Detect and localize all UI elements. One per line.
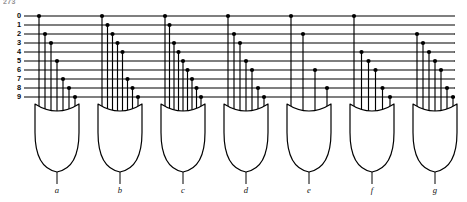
junction-dot-d-9 [262,95,266,99]
junction-dot-b-0 [100,14,104,18]
or-gate-f[interactable] [350,104,394,172]
junction-dot-a-8 [67,86,71,90]
junction-dot-c-5 [181,59,185,63]
or-gate-b[interactable] [98,104,142,172]
or-gate-e[interactable] [287,104,331,172]
junction-dot-g-2 [415,32,419,36]
junction-dot-d-2 [232,32,236,36]
junction-dot-b-4 [120,50,124,54]
junction-dot-c-4 [176,50,180,54]
junction-dot-a-9 [73,95,77,99]
logic-diagram-svg: 0123456789abcdefg [0,0,467,202]
gate-output-label-g: g [433,185,438,195]
gate-output-label-b: b [118,185,123,195]
gate-group [35,104,457,184]
junction-dot-e-2 [301,32,305,36]
gate-output-label-c: c [181,185,185,195]
junction-dot-d-5 [244,59,248,63]
junction-dot-a-3 [49,41,53,45]
junction-dot-f-6 [373,68,377,72]
junction-dot-c-1 [167,23,171,27]
or-gate-g[interactable] [413,104,457,172]
input-row-label-5: 5 [17,56,21,65]
junction-dot-b-9 [136,95,140,99]
junction-dot-g-6 [439,68,443,72]
junction-dot-a-7 [61,77,65,81]
junction-dot-c-6 [185,68,189,72]
input-row-label-8: 8 [17,83,21,92]
junction-dot-d-8 [256,86,260,90]
junction-dot-a-2 [43,32,47,36]
junction-dot-g-5 [433,59,437,63]
junction-dot-b-2 [110,32,114,36]
gate-output-label-a: a [55,185,59,195]
junction-dot-a-0 [37,14,41,18]
junction-dot-c-9 [199,95,203,99]
junction-dot-b-1 [105,23,109,27]
junction-dot-b-3 [115,41,119,45]
input-row-label-3: 3 [17,38,21,47]
or-gate-c[interactable] [161,104,205,172]
junction-dot-c-0 [163,14,167,18]
junction-dot-f-8 [380,86,384,90]
junction-dot-f-0 [352,14,356,18]
junction-dot-c-7 [190,77,194,81]
junction-dot-d-3 [238,41,242,45]
junction-dot-g-3 [421,41,425,45]
input-row-label-2: 2 [17,29,21,38]
junction-dot-f-9 [388,95,392,99]
or-gate-d[interactable] [224,104,268,172]
gate-output-label-f: f [371,185,375,195]
junction-dot-b-8 [130,86,134,90]
junction-dot-c-3 [172,41,176,45]
junction-dot-g-8 [445,86,449,90]
junction-dot-d-6 [250,68,254,72]
input-row-label-0: 0 [17,11,21,20]
junction-dot-e-6 [313,68,317,72]
input-row-label-4: 4 [17,47,22,56]
input-row-label-9: 9 [17,92,21,101]
junction-dot-d-0 [226,14,230,18]
figure-canvas: 273 0123456789abcdefg [0,0,467,202]
page-number: 273 [3,0,16,5]
junction-dot-g-9 [451,95,455,99]
input-row-label-7: 7 [17,74,21,83]
gate-output-label-e: e [307,185,311,195]
junction-dot-e-0 [289,14,293,18]
junction-dot-f-4 [359,50,363,54]
junction-dot-f-5 [366,59,370,63]
junction-dot-e-8 [325,86,329,90]
or-gate-a[interactable] [35,104,79,172]
input-row-label-1: 1 [17,20,21,29]
junction-dot-g-4 [427,50,431,54]
junction-dot-c-8 [194,86,198,90]
input-row-label-6: 6 [17,65,21,74]
gate-output-label-d: d [244,185,249,195]
junction-dot-b-7 [125,77,129,81]
junction-dot-a-5 [55,59,59,63]
